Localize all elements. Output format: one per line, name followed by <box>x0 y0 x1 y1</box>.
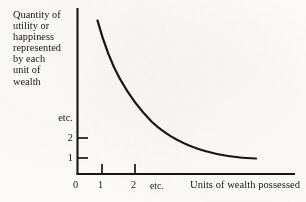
x-axis-caption: Units of wealth possessed <box>190 180 300 191</box>
marginal-utility-curve <box>98 21 257 159</box>
y-axis-tick-marks <box>78 138 88 158</box>
axis-lines <box>77 8 296 175</box>
x-axis-tick-marks <box>102 164 135 173</box>
x-tick-label-0: 0 <box>73 180 78 190</box>
y-tick-label-etc: etc. <box>58 113 73 123</box>
y-tick-label-1: 1 <box>68 153 73 163</box>
x-tick-label-etc: etc. <box>150 181 164 191</box>
x-tick-label-2: 2 <box>131 180 136 190</box>
utility-curve-figure: Quantity of utility or happiness represe… <box>0 0 306 202</box>
y-tick-label-2: 2 <box>68 133 73 143</box>
x-tick-label-1: 1 <box>98 180 103 190</box>
plot-canvas <box>0 0 306 202</box>
